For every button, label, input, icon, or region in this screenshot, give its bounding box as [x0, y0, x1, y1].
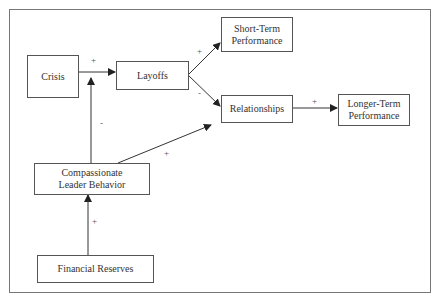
node-layoffs: Layoffs — [116, 61, 189, 90]
node-compassionate-label: Compassionate Leader Behavior — [47, 167, 137, 191]
node-compassionate-leader-behavior: Compassionate Leader Behavior — [34, 163, 150, 195]
node-layoffs-label: Layoffs — [137, 70, 168, 82]
node-short-term-label: Short-Term Performance — [229, 23, 285, 47]
sign-relationships-longerterm: + — [312, 96, 317, 106]
edge-layoffs-relationships — [188, 75, 220, 106]
node-short-term-performance: Short-Term Performance — [221, 17, 293, 52]
sign-financial-compassionate: + — [92, 216, 97, 226]
node-longer-term-label: Longer-Term Performance — [344, 98, 404, 122]
node-relationships-label: Relationships — [230, 103, 284, 115]
sign-layoffs-shortterm: + — [197, 46, 202, 56]
node-financial-label: Financial Reserves — [58, 263, 134, 275]
node-relationships: Relationships — [221, 95, 293, 123]
node-financial-reserves: Financial Reserves — [37, 255, 154, 283]
sign-compassionate-relationships: + — [164, 148, 169, 158]
edge-layoffs-shortterm — [188, 43, 220, 75]
node-crisis-label: Crisis — [41, 71, 64, 83]
sign-compassionate-layoffs: - — [100, 118, 103, 128]
sign-layoffs-relationships: - — [198, 88, 201, 98]
node-longer-term-performance: Longer-Term Performance — [338, 94, 410, 126]
sign-crisis-layoffs: + — [91, 55, 96, 65]
node-crisis: Crisis — [27, 55, 79, 98]
